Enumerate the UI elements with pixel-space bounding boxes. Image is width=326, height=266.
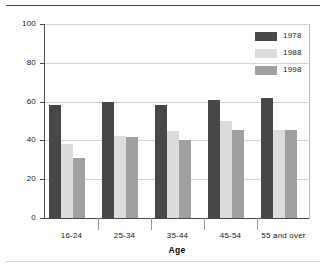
bar-1978-35-44	[155, 105, 167, 218]
legend-label-1998: 1998	[283, 65, 302, 75]
bar-1988-35-44	[167, 131, 179, 218]
y-tick-label: 40	[6, 136, 36, 144]
x-tick-separator	[151, 218, 152, 230]
bar-1988-55-and-over	[273, 130, 285, 218]
bar-1988-25-34	[114, 136, 126, 218]
x-tick-label: 55 and over	[257, 231, 310, 240]
bar-1978-55-and-over	[261, 98, 273, 218]
x-tick-label: 35-44	[151, 231, 204, 240]
bar-1998-45-54	[232, 130, 244, 218]
y-tick-mark	[40, 63, 44, 64]
x-tick-separator	[98, 218, 99, 230]
bar-1978-16-24	[49, 105, 61, 218]
x-tick-label: 25-34	[98, 231, 151, 240]
bar-group	[208, 24, 244, 218]
x-tick-separator	[204, 218, 205, 230]
legend-swatch-1978	[255, 32, 277, 41]
bar-1998-16-24	[73, 158, 85, 218]
legend-label-1978: 1978	[283, 31, 302, 41]
y-tick-label: 20	[6, 175, 36, 183]
x-tick-label: 16-24	[45, 231, 98, 240]
y-tick-label: 100	[6, 20, 36, 28]
legend-label-1988: 1988	[283, 48, 302, 58]
bar-group	[155, 24, 191, 218]
y-tick-mark	[40, 218, 44, 219]
bar-1978-45-54	[208, 100, 220, 218]
y-tick-mark	[40, 102, 44, 103]
bar-1988-16-24	[61, 144, 73, 218]
top-divider-rule	[6, 5, 320, 6]
x-tick-separator	[257, 218, 258, 230]
x-tick-label: 45-54	[204, 231, 257, 240]
y-tick-mark	[40, 179, 44, 180]
y-tick-label: 80	[6, 59, 36, 67]
bar-1998-35-44	[179, 140, 191, 218]
y-tick-label: 0	[6, 214, 36, 222]
bar-1998-25-34	[126, 137, 138, 218]
bar-group	[49, 24, 85, 218]
bar-1998-55-and-over	[285, 130, 297, 218]
legend-swatch-1998	[255, 66, 277, 75]
legend-swatch-1988	[255, 49, 277, 58]
bar-group	[102, 24, 138, 218]
y-tick-mark	[40, 140, 44, 141]
bottom-divider-rule	[6, 261, 320, 262]
x-axis-title: Age	[44, 245, 310, 255]
x-axis-line	[44, 218, 310, 219]
bar-1978-25-34	[102, 102, 114, 218]
y-tick-label: 60	[6, 98, 36, 106]
bar-chart-figure: Percentage 020406080100 16-2425-3435-444…	[0, 0, 326, 266]
bar-1988-45-54	[220, 121, 232, 218]
y-tick-mark	[40, 24, 44, 25]
